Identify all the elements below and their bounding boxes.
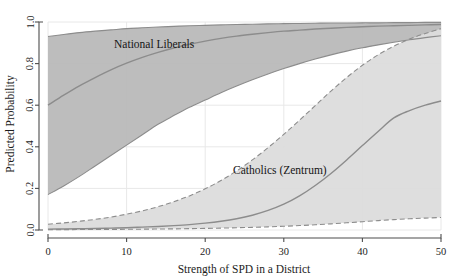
annotation-national-liberals: National Liberals bbox=[114, 38, 195, 50]
y-tick-label-5: 1.0 bbox=[25, 15, 36, 28]
chart-figure: 0.00.20.40.60.81.001020304050 National L… bbox=[0, 0, 461, 279]
x-tick-label-5: 50 bbox=[436, 246, 447, 257]
y-tick-label-4: 0.8 bbox=[25, 57, 36, 70]
x-tick-label-2: 20 bbox=[200, 246, 211, 257]
chart-canvas: 0.00.20.40.60.81.001020304050 National L… bbox=[0, 0, 461, 279]
x-tick-label-4: 40 bbox=[357, 246, 368, 257]
y-axis-title: Predicted Probability bbox=[4, 75, 17, 173]
annotation-catholics-zentrum: Catholics (Zentrum) bbox=[233, 164, 327, 177]
x-tick-label-3: 30 bbox=[279, 246, 290, 257]
y-tick-label-2: 0.4 bbox=[25, 139, 36, 153]
y-tick-label-3: 0.6 bbox=[25, 99, 36, 112]
x-axis-title: Strength of SPD in a District bbox=[178, 263, 311, 276]
x-tick-label-0: 0 bbox=[45, 246, 50, 257]
y-tick-label-1: 0.2 bbox=[25, 182, 36, 195]
x-tick-label-1: 10 bbox=[121, 246, 132, 257]
y-tick-label-0: 0.0 bbox=[25, 223, 36, 236]
